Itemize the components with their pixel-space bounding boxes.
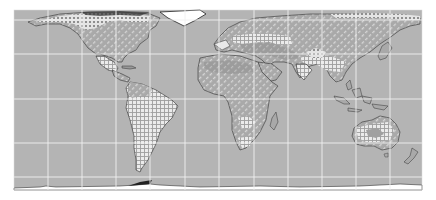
arctic-islands [80,11,150,16]
map-canvas [0,0,436,200]
world-map [0,0,436,200]
